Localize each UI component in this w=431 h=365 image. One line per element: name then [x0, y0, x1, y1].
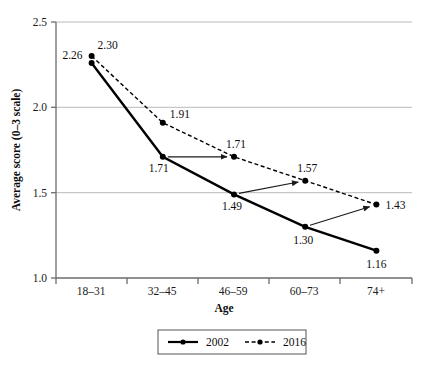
- y-tick-label-1.5: 1.5: [33, 187, 48, 199]
- x-tick-label-4: 74+: [367, 285, 385, 297]
- data-point-2002-32–45: [160, 154, 166, 160]
- data-label-2002-74+: 1.16: [366, 258, 386, 270]
- chart-container: 2.5 2.0 1.5 1.0 18–31 32–45 46–59 60–73 …: [0, 0, 431, 365]
- x-tick-label-3: 60–73: [290, 285, 319, 297]
- data-label-2016-18–31: 2.30: [98, 39, 118, 51]
- data-label-2002-60–73: 1.30: [293, 234, 313, 246]
- legend-label-2002: 2002: [206, 336, 229, 348]
- x-axis-title: Age: [214, 302, 233, 315]
- x-tick-label-0: 18–31: [77, 285, 106, 297]
- data-point-2016-46–59: [231, 154, 237, 160]
- x-tick-label-1: 32–45: [148, 285, 177, 297]
- y-tick-label-2.5: 2.5: [33, 16, 48, 28]
- data-point-2016-18–31: [89, 53, 95, 59]
- y-tick-label-2.0: 2.0: [33, 101, 48, 113]
- data-label-2016-46–59: 1.71: [226, 138, 246, 150]
- data-point-2002-60–73: [302, 224, 308, 230]
- y-tick-label-1.0: 1.0: [33, 272, 48, 284]
- legend-marker-2002-icon: [180, 339, 185, 344]
- legend: 2002 2016: [158, 330, 306, 354]
- x-tick-label-2: 46–59: [219, 285, 248, 297]
- data-point-2016-74+: [373, 202, 379, 208]
- y-axis-title: Average score (0–3 scale): [10, 89, 23, 212]
- legend-label-2016: 2016: [283, 336, 306, 348]
- data-point-2016-32–45: [160, 120, 166, 126]
- line-chart: 2.5 2.0 1.5 1.0 18–31 32–45 46–59 60–73 …: [0, 0, 431, 365]
- data-point-2002-46–59: [231, 191, 237, 197]
- data-point-2002-74+: [373, 248, 379, 254]
- data-label-2002-18–31: 2.26: [62, 49, 82, 61]
- data-label-2002-32–45: 1.71: [149, 162, 169, 174]
- data-point-2016-60–73: [302, 178, 308, 184]
- legend-marker-2016-icon: [257, 339, 262, 344]
- data-label-2002-46–59: 1.49: [222, 200, 242, 212]
- data-label-2016-60–73: 1.57: [297, 162, 317, 174]
- data-label-2016-32–45: 1.91: [170, 108, 190, 120]
- data-label-2016-74+: 1.43: [385, 199, 405, 211]
- data-point-2002-18–31: [89, 60, 95, 66]
